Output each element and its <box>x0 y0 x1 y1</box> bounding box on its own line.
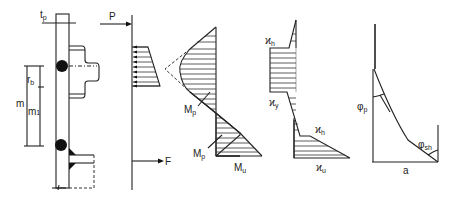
moment-panel: Mp Mp Mu <box>165 27 262 174</box>
mp-label-2: Mp <box>193 148 205 161</box>
bolt <box>56 46 99 98</box>
phi-p-label: φp <box>357 101 367 114</box>
p-force-label: P <box>109 11 116 22</box>
kappa-y-label: ϰy <box>269 97 279 110</box>
diagram-canvas: tp rb m m1 <box>0 0 459 197</box>
m-label: m <box>16 98 24 109</box>
m1-label: m1 <box>28 106 40 117</box>
f-force-label: F <box>165 156 171 167</box>
mu-label: Mu <box>234 162 246 174</box>
bolt-contact-top-icon <box>56 60 68 72</box>
tp-label: tp <box>40 9 47 22</box>
rb-label: rb <box>27 74 34 86</box>
dimension-lines: rb m m1 <box>16 66 44 146</box>
mp-label-1: Mp <box>184 104 196 117</box>
geometry-panel: tp rb m m1 <box>16 9 99 190</box>
kappa-h-label-top: ϰh <box>265 35 275 47</box>
kappa-h-label-bottom: ϰh <box>315 124 325 136</box>
rotation-panel: φp φsh a <box>357 24 438 176</box>
flange-weld <box>52 139 94 190</box>
curvature-panel: ϰh ϰy ϰh ϰu <box>265 20 350 174</box>
kappa-u-label: ϰu <box>316 162 326 174</box>
connection-diagram: tp rb m m1 <box>0 0 459 197</box>
end-plate <box>56 14 69 188</box>
bolt-contact-bottom-icon <box>55 139 67 151</box>
loads-panel: P F <box>100 11 171 190</box>
a-label: a <box>403 165 409 176</box>
phi-sh-label: φsh <box>418 139 432 151</box>
